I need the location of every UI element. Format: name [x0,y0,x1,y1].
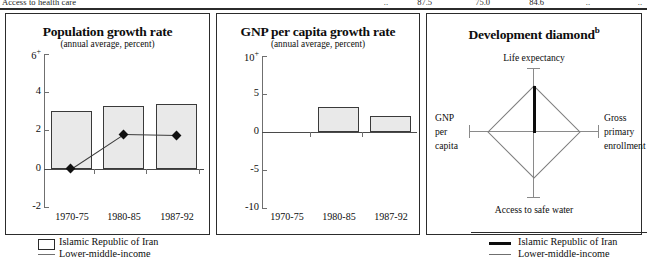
diamond-chart-title: Development diamondb [427,25,641,43]
population-ytick-6 [44,54,49,55]
diamond-label-enrollment-line2: primary [604,126,634,137]
gnp-xtick-1 [310,132,311,137]
gnp-bar-1980-85 [318,107,359,132]
table-cell-4: .. [570,0,590,7]
gnp-ytick-minus10 [262,208,267,209]
diamond-label-safe-water: Access to safe water [454,204,614,215]
diamond-label-enrollment-line1: Gross [604,112,626,123]
population-ylabel-4: 4 [8,85,41,96]
diamond-label-life-expectancy: Life expectancy [464,52,604,63]
population-chart-title: Population growth rate [6,24,209,40]
population-ylabel-6: 6+ [8,47,41,61]
gnp-bar-1987-92 [370,116,411,132]
gnp-chart-subtitle: (annual average, percent) [217,39,419,49]
development-diamond-panel: Development diamondb Life expectancy GNP… [426,13,642,235]
table-cell-3: 84.6 [510,0,544,7]
diamond-label-enrollment-line3: enrollment [604,140,646,151]
diamond-left-cap [469,125,470,138]
population-ytick-4 [44,92,49,93]
legend-label-iran-left: Islamic Republic of Iran [59,236,158,247]
diamond-legend-separator [471,232,647,233]
gnp-ylabel-0: 0 [219,125,259,136]
table-bottom-rule [0,8,647,10]
gnp-ytick-minus5 [262,170,267,171]
population-ytick-minus2 [44,207,49,208]
population-ylabel-2: 2 [8,123,41,134]
diamond-title-superscript: b [595,25,600,35]
diamond-title-text: Development diamond [468,27,594,42]
table-cell-0: .. [358,0,388,7]
diamond-top-cap [527,68,540,69]
gnp-ylabel-10: 10+ [219,49,259,63]
diamond-iran-life-expectancy-bar [533,86,536,133]
diamond-label-gnp-line1: GNP [435,112,454,123]
legend-label-iran-right: Islamic Republic of Iran [518,236,617,247]
table-cell-1: 87.5 [398,0,432,7]
legend-swatch-lmi-line [38,254,55,255]
table-row-label: Access to health care [2,0,76,7]
gnp-chart-title: GNP per capita growth rate [217,24,419,40]
gnp-ylabel-5: 5 [219,87,259,98]
diamond-label-gnp-line3: capita [435,140,458,151]
gnp-ytick-5 [262,94,267,95]
population-ylabel-0: 0 [8,162,41,173]
legend-swatch-lmi-thin [489,254,511,255]
legend-swatch-iran-thick [489,242,511,245]
population-ylabel-minus2: -2 [8,200,41,211]
gnp-ytick-10 [262,56,267,57]
gnp-growth-chart-panel: GNP per capita growth rate (annual avera… [216,13,420,235]
population-xtick-2 [146,169,147,174]
table-cell-5: .. [622,0,642,7]
diamond-right-cap [598,125,599,138]
figure-panel-group: Access to health care .. 87.5 75.0 84.6 … [0,0,647,263]
legend-label-lmi-left: Lower-middle-income [59,248,150,259]
truncated-table-row: Access to health care .. 87.5 75.0 84.6 … [0,0,647,11]
diamond-label-gnp-line2: per [435,126,447,137]
population-xtick-3 [199,169,200,174]
population-growth-chart-panel: Population growth rate (annual average, … [5,13,210,235]
gnp-zero-baseline [262,132,417,133]
population-xlabel-1987-92: 1987-92 [143,211,211,222]
population-xtick-1 [94,169,95,174]
gnp-xtick-2 [362,132,363,137]
table-cell-2: 75.0 [456,0,490,7]
gnp-ylabel-minus5: -5 [219,163,259,174]
population-ytick-2 [44,130,49,131]
legend-swatch-iran-box [38,239,55,250]
diamond-bottom-cap [527,197,540,198]
gnp-xlabel-1987-92: 1987-92 [357,211,425,222]
legend-label-lmi-right: Lower-middle-income [518,248,609,259]
